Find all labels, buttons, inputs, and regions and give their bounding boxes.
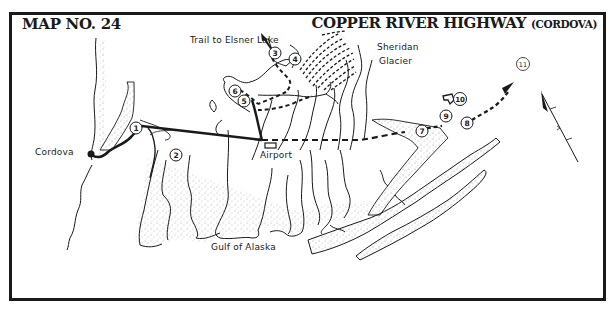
label-glacier-line1: Sheridan xyxy=(377,42,419,52)
label-trail: Trail to Elsner Lake xyxy=(190,35,279,45)
map-number: MAP NO. 24 xyxy=(22,15,121,33)
label-gulf-of-alaska: Gulf of Alaska xyxy=(211,242,276,252)
label-airport: Airport xyxy=(260,150,292,160)
label-glacier-line2: Glacier xyxy=(379,56,412,66)
map-title: COPPER RIVER HIGHWAY (CORDOVA) xyxy=(311,14,597,32)
map-border xyxy=(9,12,606,301)
map-title-sub: (CORDOVA) xyxy=(531,18,597,30)
label-cordova: Cordova xyxy=(35,147,74,157)
map-title-main: COPPER RIVER HIGHWAY xyxy=(311,14,526,32)
map-canvas: 1 2 3 4 5 6 7 8 9 10 11 MAP NO. 24 COPPE… xyxy=(0,0,615,312)
